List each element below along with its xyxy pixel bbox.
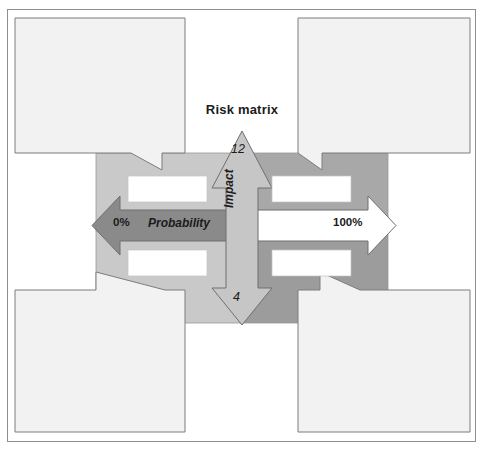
callout-bottom-right-shape[interactable] [298,272,470,432]
page-title: Risk matrix [0,102,484,117]
probability-min-value: 0% [113,216,130,228]
label-box-bottom-left[interactable] [128,250,207,276]
label-box-bottom-right[interactable] [272,250,351,276]
impact-axis-label: Impact [222,169,236,208]
callout-top-left-shape[interactable] [15,18,185,170]
probability-max-value: 100% [333,216,362,228]
probability-axis-label: Probability [148,216,210,230]
label-box-top-right[interactable] [272,176,351,202]
label-box-top-left[interactable] [128,176,207,202]
impact-max-value: 12 [231,142,245,156]
diagram-page: Risk matrix 12 4 0% Probability 100% Imp… [0,0,484,450]
callout-bottom-left-shape[interactable] [15,272,185,432]
risk-matrix-graphic [0,0,484,450]
impact-min-value: 4 [233,290,240,304]
callout-top-right-shape[interactable] [298,18,470,170]
